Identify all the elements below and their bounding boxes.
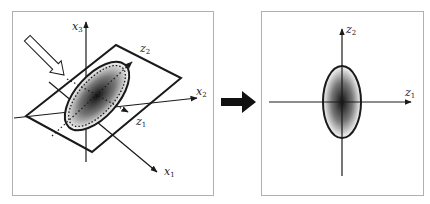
transition-arrow-icon (221, 91, 256, 113)
pca-diagram: x3 z2 x2 z1 x1 z2 z1 (0, 0, 430, 204)
right-panel: z2 z1 (262, 12, 424, 196)
left-panel: x3 z2 x2 z1 x1 (13, 12, 214, 196)
